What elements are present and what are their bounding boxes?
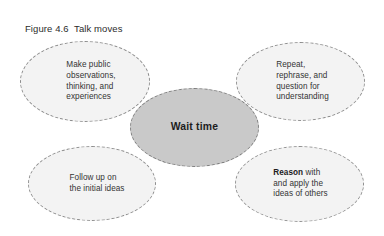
talk-moves-diagram: Make public observations, thinking, and …	[0, 26, 384, 236]
diagram-node-reason-with: Reason with and apply the ideas of other…	[235, 146, 364, 222]
diagram-node-label: Reason with and apply the ideas of other…	[273, 168, 327, 200]
diagram-node-label: Repeat, rephrase, and question for under…	[276, 60, 329, 102]
diagram-node-label: Follow up on the initial ideas	[69, 173, 124, 194]
diagram-node-label-bold-lead: Reason	[273, 168, 303, 177]
diagram-node-follow-up: Follow up on the initial ideas	[28, 146, 156, 221]
figure-container: Figure 4.6 Talk moves Make public observ…	[0, 0, 384, 236]
diagram-node-make-public: Make public observations, thinking, and …	[20, 41, 150, 122]
diagram-node-wait-time: Wait time	[130, 88, 259, 167]
diagram-node-repeat-rephrase: Repeat, rephrase, and question for under…	[236, 42, 365, 121]
diagram-center-label: Wait time	[171, 122, 219, 133]
diagram-node-label: Make public observations, thinking, and …	[66, 60, 115, 102]
